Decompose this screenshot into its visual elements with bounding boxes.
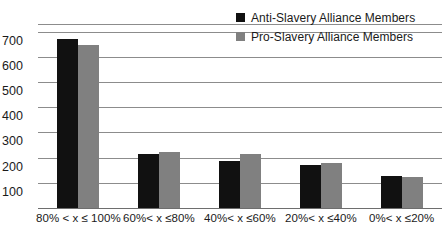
bar — [57, 39, 78, 208]
x-axis-tick-label: 80% < x ≤ 100% — [36, 212, 121, 224]
bar — [138, 154, 159, 208]
x-axis-line — [38, 208, 442, 209]
plot-area: 100200300400500600700 — [38, 24, 442, 208]
legend-item: Anti-Slavery Alliance Members — [236, 8, 415, 27]
y-axis-tick-label: 500 — [2, 85, 36, 98]
y-axis-tick-label: 600 — [2, 60, 36, 73]
y-axis-tick-label: 300 — [2, 135, 36, 148]
bar — [159, 152, 180, 208]
legend-swatch-icon — [236, 32, 245, 41]
legend-swatch-icon — [236, 13, 245, 22]
bar — [321, 163, 342, 208]
bar-chart: 100200300400500600700 80% < x ≤ 100%60%<… — [0, 0, 446, 236]
legend-item: Pro-Slavery Alliance Members — [236, 27, 415, 46]
y-axis-tick-label: 100 — [2, 186, 36, 199]
legend-item-label: Anti-Slavery Alliance Members — [251, 11, 415, 25]
bar-group — [219, 24, 261, 208]
bar — [402, 177, 423, 208]
x-axis-tick-label: 60%< x ≤80% — [123, 212, 195, 224]
bar-group — [57, 24, 99, 208]
y-axis-tick-label: 200 — [2, 161, 36, 174]
y-axis-tick-label: 400 — [2, 110, 36, 123]
bar — [240, 154, 261, 208]
y-axis-tick-label: 700 — [2, 35, 36, 48]
bar — [300, 165, 321, 208]
x-axis-tick-label: 40%< x ≤60% — [204, 212, 276, 224]
bar-group — [300, 24, 342, 208]
bar — [219, 161, 240, 208]
bar — [78, 45, 99, 208]
bar-group — [381, 24, 423, 208]
bar-group — [138, 24, 180, 208]
x-axis-tick-label: 0%< x ≤20% — [369, 212, 434, 224]
bar — [381, 176, 402, 208]
x-axis-tick-label: 20%< x ≤40% — [285, 212, 357, 224]
legend-item-label: Pro-Slavery Alliance Members — [251, 30, 413, 44]
chart-legend: Anti-Slavery Alliance Members Pro-Slaver… — [236, 8, 415, 46]
